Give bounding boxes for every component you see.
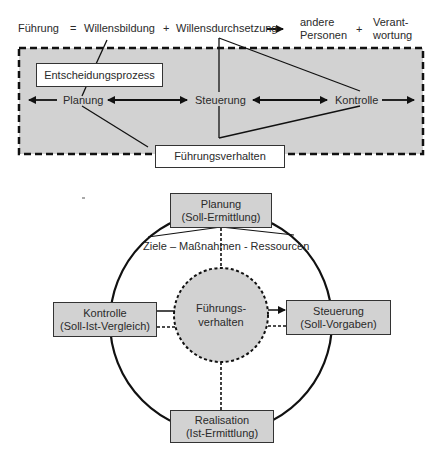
planung-title: Planung — [201, 198, 241, 211]
planung-subtitle: (Soll-Ermittlung) — [182, 211, 261, 224]
term-willensdurchsetzung: Willensdurchsetzung — [176, 22, 278, 34]
kontrolle-box: Kontrolle (Soll-Ist-Vergleich) — [53, 302, 157, 337]
verantwortung-line1: Verant- — [373, 16, 408, 28]
center-label-line2: verhalten — [181, 316, 261, 328]
steuerung-title: Steuerung — [313, 305, 364, 318]
fuehrungsverhalten-box: Führungsverhalten — [155, 145, 285, 168]
equals-sign: = — [70, 22, 76, 34]
panel-steuerung: Steuerung — [195, 94, 246, 106]
realisation-subtitle: (Ist-Ermittlung) — [186, 427, 258, 440]
center-label-line1: Führungs- — [181, 302, 261, 314]
ziele-massnahmen-ressourcen: Ziele – Maßnahmen - Ressourcen — [143, 240, 309, 252]
center-circle — [174, 268, 268, 362]
term-fuehrung: Führung — [18, 22, 59, 34]
panel-kontrolle: Kontrolle — [335, 94, 378, 106]
andere-line1: andere — [300, 16, 334, 28]
kontrolle-title: Kontrolle — [83, 307, 126, 320]
verantwortung-line2: wortung — [373, 29, 412, 41]
steuerung-box: Steuerung (Soll-Vorgaben) — [286, 300, 391, 335]
fuehrungsverhalten-label: Führungsverhalten — [174, 150, 266, 163]
entscheidungsprozess-box: Entscheidungsprozess — [36, 63, 163, 87]
ziele-line-left — [148, 227, 221, 237]
panel-planung: Planung — [63, 94, 103, 106]
realisation-box: Realisation (Ist-Ermittlung) — [170, 410, 274, 443]
andere-line2: Personen — [300, 29, 347, 41]
term-willensbildung: Willensbildung — [84, 22, 155, 34]
plus-sign: + — [163, 22, 169, 34]
entscheidungsprozess-label: Entscheidungsprozess — [44, 69, 155, 82]
kontrolle-subtitle: (Soll-Ist-Vergleich) — [60, 320, 150, 333]
plus-sign-2: + — [356, 23, 362, 35]
realisation-title: Realisation — [195, 414, 249, 427]
steuerung-subtitle: (Soll-Vorgaben) — [300, 318, 376, 331]
planung-box: Planung (Soll-Ermittlung) — [170, 193, 272, 228]
